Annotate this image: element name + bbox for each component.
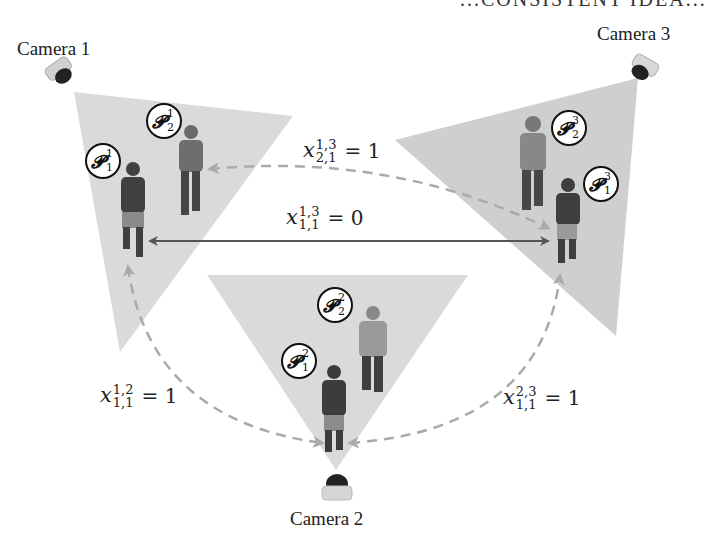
camera-2-label: Camera 2 <box>290 508 363 530</box>
eq-value: = 1 <box>345 139 381 163</box>
person-badge-p3-2: 𝓟 3 2 <box>551 110 587 146</box>
eq-value: = 0 <box>328 206 364 230</box>
person-badge-p2-1: 𝓟 2 1 <box>281 343 317 379</box>
person-index: 1 <box>106 161 113 174</box>
eq-variable: x <box>503 385 515 409</box>
equation-x23-11: x2,31,1= 1 <box>503 385 580 411</box>
equation-x13-11: x1,31,1= 0 <box>286 205 363 231</box>
person-index: 2 <box>572 128 579 141</box>
camera-3-label: Camera 3 <box>597 23 670 45</box>
diagram-canvas <box>0 0 707 543</box>
person-index: 1 <box>604 184 611 197</box>
eq-variable: x <box>303 138 315 162</box>
equation-x12-11: x1,21,1= 1 <box>100 383 177 409</box>
person-index: 2 <box>167 121 174 134</box>
eq-variable: x <box>100 383 112 407</box>
camera-index: 2 <box>338 291 345 304</box>
person-index: 1 <box>302 361 309 374</box>
person-badge-p1-1: 𝓟 1 1 <box>85 143 121 179</box>
camera-index: 3 <box>604 170 611 183</box>
eq-value: = 1 <box>142 384 178 408</box>
camera-2-icon <box>322 474 352 500</box>
person-symbol: 𝓟 <box>287 351 300 373</box>
camera-index: 1 <box>106 147 113 160</box>
camera-index: 1 <box>167 107 174 120</box>
person-badge-p2-2: 𝓟 2 2 <box>317 287 353 323</box>
person-symbol: 𝓟 <box>557 118 570 140</box>
eq-subscript: 1,1 <box>299 218 320 231</box>
person-symbol: 𝓟 <box>152 111 165 133</box>
camera-1-label: Camera 1 <box>17 38 90 60</box>
person-symbol: 𝓟 <box>589 174 602 196</box>
eq-variable: x <box>286 205 298 229</box>
person-badge-p3-1: 𝓟 3 1 <box>583 166 619 202</box>
equation-x13-21: x1,32,1= 1 <box>303 138 380 164</box>
person-symbol: 𝓟 <box>91 151 104 173</box>
camera-index: 3 <box>572 114 579 127</box>
person-symbol: 𝓟 <box>323 295 336 317</box>
person-badge-p1-2: 𝓟 1 2 <box>146 103 182 139</box>
eq-subscript: 1,1 <box>113 396 134 409</box>
eq-value: = 1 <box>545 386 581 410</box>
eq-subscript: 2,1 <box>316 151 337 164</box>
person-index: 2 <box>338 305 345 318</box>
camera-1-icon <box>44 55 78 89</box>
eq-subscript: 1,1 <box>516 398 537 411</box>
camera-index: 2 <box>302 347 309 360</box>
